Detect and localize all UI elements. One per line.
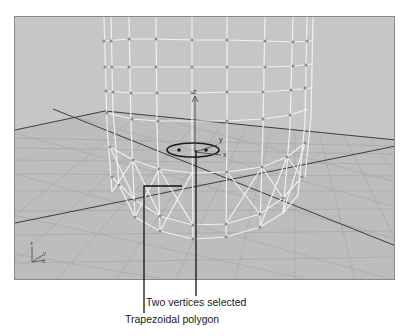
tripod-x-label: x [42, 258, 45, 264]
tripod-y-label: y [43, 250, 46, 256]
callout-two-vertices-selected: Two vertices selected [146, 296, 246, 308]
ground-plane [15, 111, 395, 280]
scene-canvas[interactable]: z y x z x y [15, 17, 395, 280]
gizmo-x-label: x [223, 151, 227, 158]
selected-vertex-1 [177, 148, 181, 152]
callout-trapezoidal-polygon: Trapezoidal polygon [125, 313, 219, 325]
tripod-z-label: z [30, 240, 33, 246]
gizmo-z-label: z [193, 88, 197, 95]
perspective-viewport[interactable]: z y x z x y [14, 16, 395, 280]
gizmo-y-label: y [219, 136, 223, 144]
